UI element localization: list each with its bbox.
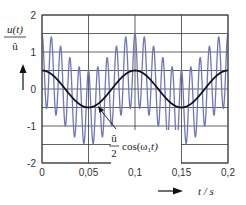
y-label-numerator: u(t) bbox=[7, 23, 23, 36]
y-tick-label: 2 bbox=[30, 10, 36, 21]
arrow-up-icon bbox=[20, 64, 27, 73]
x-tick-label: 0 bbox=[39, 167, 45, 178]
y-label-denominator: û bbox=[12, 40, 18, 52]
annotation-function: cos(ω1t) bbox=[122, 140, 158, 154]
arrow-right-icon bbox=[173, 188, 183, 195]
annotation-denominator: 2 bbox=[111, 147, 117, 159]
x-tick-labels: 00,050,10,150,2 bbox=[39, 167, 235, 178]
x-tick-label: 0,15 bbox=[172, 167, 192, 178]
y-axis-label: u(t) û bbox=[4, 23, 27, 90]
y-tick-label: 1 bbox=[30, 47, 36, 58]
annotation-arrow-icon bbox=[98, 106, 104, 113]
x-tick-label: 0,05 bbox=[79, 167, 99, 178]
y-tick-label: -2 bbox=[27, 158, 36, 169]
x-axis-label: t / s bbox=[158, 185, 214, 197]
y-tick-label: 0 bbox=[30, 84, 36, 95]
x-tick-label: 0,2 bbox=[221, 167, 235, 178]
annotation-numerator: û bbox=[111, 132, 117, 144]
x-tick-label: 0,1 bbox=[128, 167, 142, 178]
y-tick-label: -1 bbox=[27, 121, 36, 132]
y-tick-labels: 210-1-2 bbox=[27, 10, 36, 169]
chart: 210-1-2 00,050,10,150,2 u(t) û t / s û 2… bbox=[0, 0, 246, 205]
x-label-text: t / s bbox=[198, 185, 214, 197]
